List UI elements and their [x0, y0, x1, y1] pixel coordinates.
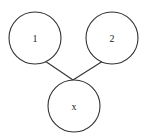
node-1-label: 1	[33, 33, 38, 44]
tree-diagram: 1 2 x	[0, 0, 145, 139]
node-2: 2	[86, 12, 138, 64]
edge-1-to-x	[45, 61, 73, 80]
edge-2-to-x	[73, 61, 103, 80]
node-x: x	[48, 80, 100, 132]
node-2-label: 2	[110, 33, 115, 44]
node-x-label: x	[72, 101, 77, 112]
node-1: 1	[9, 12, 61, 64]
